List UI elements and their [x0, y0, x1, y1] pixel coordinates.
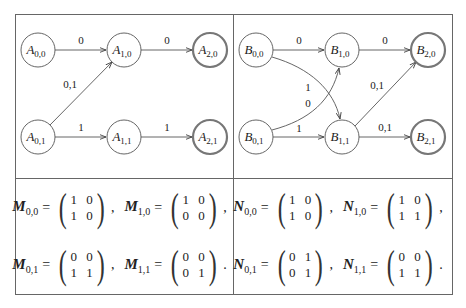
matrix-n00: (1 01 0): [275, 188, 326, 228]
matrices-n-cell: N0,0 = (1 01 0) , N1,0 = (1 01 1) , N0,1…: [234, 179, 452, 294]
matrix-name: N1,1: [343, 256, 366, 275]
matrix-n01: (0 10 1): [275, 245, 326, 285]
edge-b11-b20: [355, 62, 416, 126]
edge-label: 0,1: [378, 121, 392, 133]
edge-label: 0: [296, 34, 302, 46]
edge-label: 1: [296, 122, 302, 134]
matrix-m10: (1 00 0): [168, 188, 219, 228]
edge-label: 1: [164, 121, 170, 133]
matrix-name: M0,0: [12, 198, 38, 217]
matrix-equation-row: N0,0 = (1 01 0) , N1,0 = (1 01 1) ,: [233, 188, 452, 228]
matrix-name: N1,0: [343, 198, 366, 217]
automaton-b: 0 0 1 0 1 0,1 0,1 B0,0 B1,0 B2,0 B0,1 B1…: [239, 33, 445, 154]
edge-label: 0: [78, 34, 84, 46]
matrix-name: M1,0: [125, 198, 151, 217]
matrix-n11: (0 01 1): [384, 245, 435, 285]
edge-label: 1: [78, 121, 84, 133]
edge-label: 0: [164, 34, 170, 46]
matrix-equation-row: N0,1 = (0 10 1) , N1,1 = (0 01 1) .: [233, 245, 452, 285]
matrix-equation-row: M0,1 = (0 01 1) , M1,1 = (0 00 1) .: [12, 245, 236, 285]
edge-label: 0: [382, 34, 388, 46]
matrix-m01: (0 01 1): [56, 245, 107, 285]
edge-a01-a10: [50, 62, 112, 125]
matrix-name: M1,1: [125, 256, 151, 275]
matrices-m-cell: M0,0 = (1 01 0) , M1,0 = (1 00 0) , M0,1…: [16, 179, 233, 294]
edge-label: 1: [305, 81, 311, 93]
edge-label: 0,1: [63, 78, 77, 90]
automaton-a: 0 0 0,1 1 1 A0,0 A1,0 A2,0 A0,1 A1,1 A2,…: [21, 33, 227, 154]
matrix-name: N0,1: [233, 256, 256, 275]
matrix-name: N0,0: [233, 198, 256, 217]
matrix-equation-row: M0,0 = (1 01 0) , M1,0 = (1 00 0) ,: [12, 188, 236, 228]
matrix-n10: (1 01 1): [384, 188, 435, 228]
matrix-m00: (1 01 0): [56, 188, 107, 228]
matrix-name: M0,1: [12, 256, 38, 275]
edge-label: 0: [305, 97, 311, 109]
matrix-m11: (0 00 1): [168, 245, 219, 285]
edge-label: 0,1: [370, 79, 384, 91]
